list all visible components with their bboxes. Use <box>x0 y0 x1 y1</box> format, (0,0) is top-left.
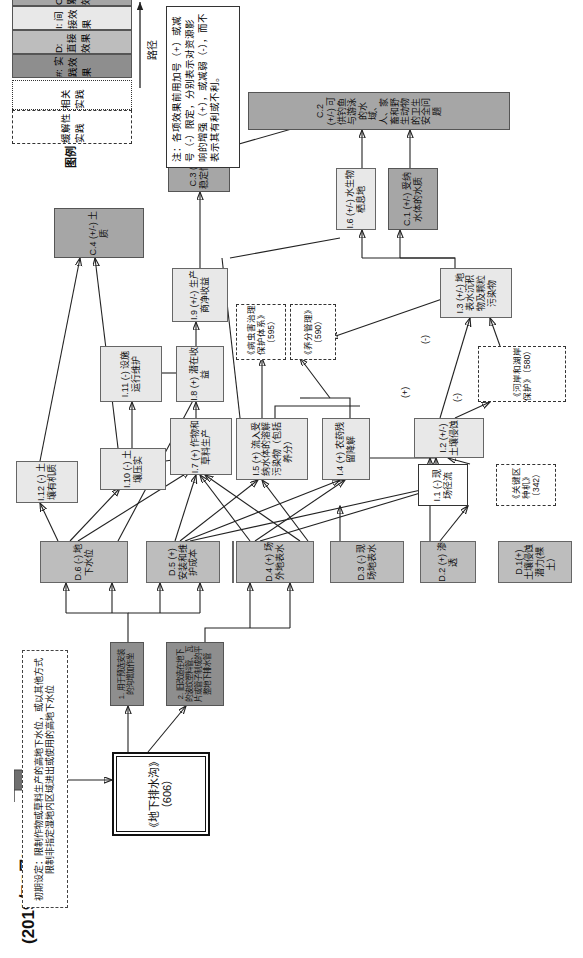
node-i11: I.11 (-) 设施运行维护 <box>100 346 162 402</box>
flowchart-canvas: (2019年5月) 开始 初期设定：限制作物或草料生产的高地下水位，或以其他方式… <box>0 0 583 958</box>
legend-row-indirect: I: 间接效果 <box>12 6 132 30</box>
related-practice-342: 《关键区种机》（342） <box>496 464 556 506</box>
related-practice-595: 《病虫害治理保护体系》（595） <box>236 304 286 360</box>
legend-related-practice-label: 相关实践 <box>58 81 86 109</box>
legend-row-practice: #: 实践效果 <box>12 54 132 78</box>
node-d4: D.4 (+) 场外地表水 <box>236 541 314 583</box>
legend-path-label: 路径 <box>144 40 159 60</box>
legend-row-direct-label: D: 直接效果 <box>53 31 92 53</box>
node-i10: I.10 (-) 土壤压实 <box>100 448 166 490</box>
node-d5-label: D.5 (+) 安装和维护成本 <box>167 544 199 580</box>
node-c2: C.2 (+/-) 可供钓鱼与游泳的水域、人、家畜和野生动物的卫生安全问题 <box>248 92 510 130</box>
node-i5-label: I.5 (+) 流入受纳水体的溶解污染物（包括养分） <box>251 421 293 477</box>
node-d3-v: D.3 (-) 现场地表水 <box>330 541 404 583</box>
node-i9-label: I.9 (+/-) 生产商净收益 <box>189 269 210 321</box>
node-c1: C.1 (+/-) 受纳水体的水质 <box>388 168 438 230</box>
node-i5: I.5 (+) 流入受纳水体的溶解污染物（包括养分） <box>236 418 308 480</box>
node-i11-label: I.11 (-) 设施运行维护 <box>120 347 141 401</box>
node-i2-label: I.2 (+/-) 土壤侵蚀 <box>438 419 459 457</box>
related-practice-580-label: 《河岸和湖岸保护》（580） <box>512 347 532 401</box>
node-i2: I.2 (+/-) 土壤侵蚀 <box>414 418 484 458</box>
legend-mitigating-practice-label: 缓解性实践 <box>58 111 86 143</box>
node-c4: C.4 (+/-) 土质 <box>54 208 144 258</box>
legend-mitigating-practice: 缓解性实践 <box>12 110 132 144</box>
node-d3-label: D.3 (-) 现场地表水 <box>356 542 377 582</box>
practice-desc-1: 1. 用于预选安装的沟增加作坐 <box>110 642 144 706</box>
node-c1-label: C.1 (+/-) 受纳水体的水质 <box>402 169 423 229</box>
legend-row-direct: D: 直接效果 <box>12 30 132 54</box>
related-practice-590-label: 《养分管理》（590） <box>303 305 323 359</box>
legend-related-practice: 相关实践 <box>12 80 132 110</box>
node-i4: I.4 (+) 农药残留降解 <box>322 418 370 480</box>
related-practice-590: 《养分管理》（590） <box>290 304 336 360</box>
node-c2-label: C.2 (+/-) 可供钓鱼与游泳的水域、人、家畜和野生动物的卫生安全问题 <box>315 95 442 127</box>
practice-desc-2: 2. 旧改造在地下的波纹塑料管、瓦片或管子制成的平整地下排水管 <box>166 642 224 706</box>
node-i8-label: I.8 (+) 潜在收益 <box>189 347 210 401</box>
node-d2-label: D.2 (+) 渗透 <box>437 542 458 582</box>
node-i3-label: I.3 (+/-) 地表水沉积物及颗粒污染物 <box>455 271 497 315</box>
legend-note-text: 注：各项效果前用加号（+）或减号（-）限定，分别表示对资源影响的增强（+），或减… <box>171 13 220 162</box>
node-i3: I.3 (+/-) 地表水沉积物及颗粒污染物 <box>440 268 512 318</box>
node-d3-real <box>232 541 234 583</box>
node-d6-label: D.6 (-) 地下水位 <box>73 542 94 582</box>
legend-row-cumulative: C: 累积效果 <box>12 0 132 6</box>
diagram-frame: (2019年5月) 开始 初期设定：限制作物或草料生产的高地下水位，或以其他方式… <box>0 0 583 958</box>
legend-row-cumulative-label: C: 累积效果 <box>53 0 92 5</box>
related-practice-342-label: 《关键区种机》（342） <box>511 465 541 505</box>
node-d1: D.1(+) 土壤侵蚀潜力(裸土） <box>498 541 572 583</box>
node-d5: D.5 (+) 安装和维护成本 <box>146 541 220 583</box>
legend-note-box: 注：各项效果前用加号（+）或减号（-）限定，分别表示对资源影响的增强（+），或减… <box>166 6 240 168</box>
edge-label-minus-2: (-) <box>452 393 462 402</box>
initial-setting-text: 初期设定：限制作物或草料生产的高地下水位，或以其他方式限制非指定湿地内区域进出或… <box>34 657 55 901</box>
related-practice-595-label: 《病虫害治理保护体系》（595） <box>246 305 276 359</box>
node-i6: I.6 (+/-) 水生物栖息地 <box>336 168 376 230</box>
legend-title: 图例 <box>62 146 78 168</box>
practice-desc-1-text: 1. 用于预选安装的沟增加作坐 <box>118 646 136 702</box>
node-i10-label: I.10 (-) 土壤压实 <box>122 449 143 489</box>
legend-row-practice-label: #: 实践效果 <box>51 55 93 77</box>
edge-label-plus-1: (+) <box>400 387 410 398</box>
node-d1-label: D.1(+) 土壤侵蚀潜力(裸土） <box>514 544 556 580</box>
node-c4-label: C.4 (+/-) 土质 <box>88 209 109 257</box>
related-practice-580: 《河岸和湖岸保护》（580） <box>478 346 566 402</box>
node-i9: I.9 (+/-) 生产商净收益 <box>172 268 228 322</box>
node-i12: I.12 (-) 土壤有机质 <box>16 461 78 503</box>
node-d4-label: D.4 (+) 场外地表水 <box>264 542 285 582</box>
initial-setting-box: 初期设定：限制作物或草料生产的高地下水位，或以其他方式限制非指定湿地内区域进出或… <box>22 650 68 908</box>
practice-desc-2-text: 2. 旧改造在地下的波纹塑料管、瓦片或管子制成的平整地下排水管 <box>177 646 212 702</box>
node-d6: D.6 (-) 地下水位 <box>40 541 128 583</box>
node-i7: I.7 (+) 作物和草料生产 <box>170 418 232 475</box>
node-i12-label: I.12 (-) 土壤有机质 <box>36 462 57 502</box>
node-i6-label: I.6 (+/-) 水生物栖息地 <box>345 169 366 229</box>
node-i7-label: I.7 (+) 作物和草料生产 <box>190 419 211 474</box>
node-d2: D.2 (+) 渗透 <box>420 541 476 583</box>
legend-row-indirect-label: I: 间接效果 <box>51 7 93 29</box>
main-practice-box[interactable]: 《地下排水沟》（606） <box>112 752 210 836</box>
node-i8: I.8 (+) 潜在收益 <box>176 346 224 402</box>
edge-label-minus-1: (-) <box>420 335 430 344</box>
node-i4-label: I.4 (+) 农药残留降解 <box>335 419 356 479</box>
node-i1-box: I.1 (-) 现场径流 <box>418 464 468 506</box>
main-practice-label: 《地下排水沟》（606） <box>148 754 174 834</box>
node-i1-label: I.1 (-) 现场径流 <box>432 465 453 505</box>
